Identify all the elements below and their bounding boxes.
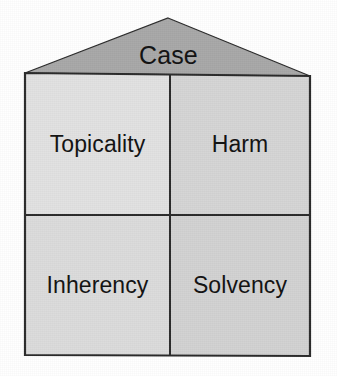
diagram-canvas: Case Topicality Harm Inherency Solvency <box>0 0 337 376</box>
quadrant-topicality[interactable] <box>26 74 170 215</box>
quadrant-inherency[interactable] <box>26 215 170 355</box>
quadrant-harm[interactable] <box>170 75 310 215</box>
quadrant-solvency[interactable] <box>170 215 310 355</box>
roof-triangle <box>25 18 310 76</box>
case-house-diagram <box>0 0 337 376</box>
